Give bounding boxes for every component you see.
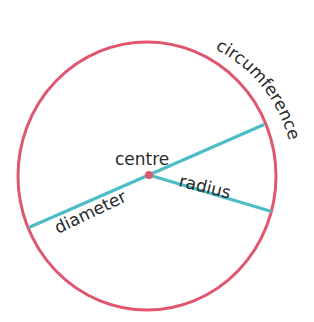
centre-label: centre <box>115 149 169 169</box>
radius-label: radius <box>177 170 233 202</box>
circle-diagram: centre radius diameter circumference <box>0 0 314 322</box>
diagram-svg: centre radius diameter circumference <box>0 0 314 322</box>
centre-dot <box>145 171 153 179</box>
radius-label-path: radius <box>177 170 233 202</box>
